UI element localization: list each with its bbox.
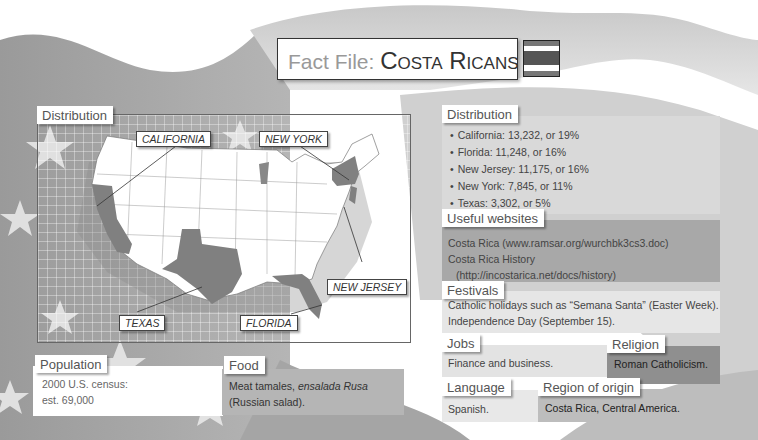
page-title: Fact File: Costa Ricans — [288, 47, 519, 75]
title-prefix: Fact File: — [288, 50, 380, 73]
distribution-list: California: 13,232, or 19% Florida: 11,2… — [442, 116, 720, 212]
state-label-new-york: NEW YORK — [259, 131, 328, 147]
map-distribution-label: Distribution — [37, 106, 113, 124]
food-text: Meat tamales, — [229, 380, 298, 392]
language-label: Language — [442, 378, 511, 396]
distribution-label: Distribution — [442, 105, 518, 123]
religion-label: Religion — [607, 335, 665, 353]
title-box: Fact File: Costa Ricans — [277, 38, 518, 80]
festivals-line: Catholic holidays such as “Semana Santa”… — [448, 297, 720, 313]
costa-rica-flag-icon — [523, 40, 560, 77]
list-item: New Jersey: 11,175, or 16% — [450, 161, 720, 178]
food-text-line2: (Russian salad). — [229, 394, 404, 410]
websites-label: Useful websites — [442, 209, 544, 227]
list-item: New York: 7,845, or 11% — [450, 178, 720, 195]
title-subject: Costa Ricans — [380, 47, 518, 74]
websites-panel: Costa Rica (www.ramsar.org/wurchbk3cs3.d… — [442, 220, 720, 282]
food-content: Meat tamales, ensalada Rusa (Russian sal… — [222, 369, 404, 410]
jobs-label: Jobs — [442, 334, 480, 352]
state-label-texas: TEXAS — [119, 315, 165, 331]
list-item: California: 13,232, or 19% — [450, 127, 720, 144]
website-link-costa-rica[interactable]: Costa Rica (www.ramsar.org/wurchbk3cs3.d… — [448, 235, 720, 251]
food-label: Food — [224, 356, 265, 374]
usa-map — [37, 114, 411, 343]
websites-content: Costa Rica (www.ramsar.org/wurchbk3cs3.d… — [442, 220, 720, 283]
festivals-line: Independence Day (September 15). — [448, 313, 720, 329]
population-line: 2000 U.S. census: — [42, 376, 223, 392]
distribution-panel: California: 13,232, or 19% Florida: 11,2… — [442, 116, 720, 214]
food-text-italic: ensalada Rusa — [298, 380, 368, 392]
state-label-california: CALIFORNIA — [136, 131, 211, 147]
population-value: est. 69,000 — [42, 392, 223, 408]
state-label-new-jersey: NEW JERSEY — [327, 279, 407, 295]
population-panel: 2000 U.S. census: est. 69,000 — [33, 366, 223, 416]
website-title-history: Costa Rica History — [448, 251, 720, 267]
state-label-florida: FLORIDA — [240, 315, 298, 331]
food-panel: Meat tamales, ensalada Rusa (Russian sal… — [222, 369, 404, 415]
region-label: Region of origin — [538, 378, 640, 396]
festivals-label: Festivals — [442, 281, 504, 299]
population-label: Population — [35, 355, 107, 373]
list-item: Florida: 11,248, or 16% — [450, 144, 720, 161]
